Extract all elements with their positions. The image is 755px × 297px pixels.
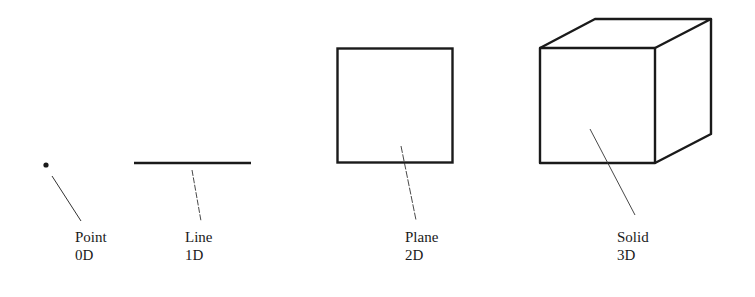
point-shape (43, 162, 48, 167)
solid-label: Solid 3D (617, 228, 649, 264)
plane-dimension: 2D (405, 246, 438, 264)
line-label: Line 1D (185, 228, 213, 264)
line-name: Line (185, 228, 213, 246)
plane-leader-line (401, 146, 416, 220)
plane-label: Plane 2D (405, 228, 438, 264)
solid-name: Solid (617, 228, 649, 246)
line-dimension: 1D (185, 246, 213, 264)
solid-shape (540, 19, 711, 163)
plane-shape (338, 49, 453, 163)
plane-name: Plane (405, 228, 438, 246)
solid-dimension: 3D (617, 246, 649, 264)
point-leader-line (52, 176, 81, 221)
line-leader-line (192, 170, 201, 221)
point-name: Point (75, 228, 107, 246)
solid-leader-line (590, 129, 635, 215)
point-dimension: 0D (75, 246, 107, 264)
point-label: Point 0D (75, 228, 107, 264)
